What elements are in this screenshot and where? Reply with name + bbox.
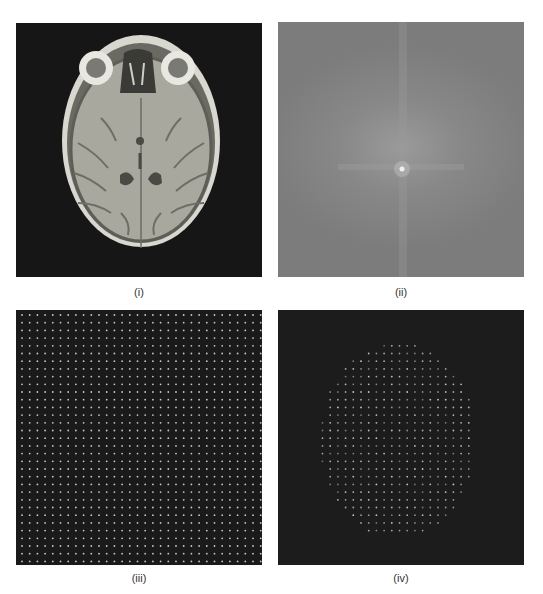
caption-panel-iii: (iii) — [16, 572, 262, 584]
caption-panel-iv: (iv) — [278, 572, 524, 584]
masked-grid-points — [278, 310, 524, 565]
caption-panel-i: (i) — [16, 286, 262, 298]
masked-sampling-grid — [278, 310, 524, 565]
spectrum-drawing — [278, 22, 524, 277]
grid-points — [16, 310, 262, 565]
caption-panel-ii: (ii) — [278, 286, 524, 298]
brain-slice-drawing — [16, 23, 262, 277]
fourier-spectrum-image — [278, 22, 524, 277]
full-sampling-grid — [16, 310, 262, 565]
mri-brain-image — [16, 23, 262, 277]
